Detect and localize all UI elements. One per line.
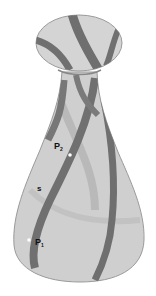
vase-rim <box>36 14 122 72</box>
point-p2 <box>68 153 72 157</box>
point-p1 <box>27 238 31 242</box>
vase-body <box>14 72 144 282</box>
label-p1: P1 <box>35 238 44 248</box>
label-p2: P2 <box>54 142 63 152</box>
vase-surface-diagram <box>0 0 156 296</box>
label-s-text: s <box>37 184 41 193</box>
label-s: s <box>37 185 41 193</box>
label-p2-sub: 2 <box>60 146 63 152</box>
label-p1-sub: 1 <box>41 242 44 248</box>
